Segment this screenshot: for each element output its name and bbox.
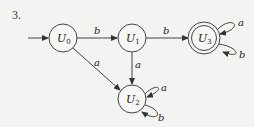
loop-label-u2-a: a — [161, 82, 167, 93]
loop-label-u3-b: b — [239, 49, 245, 60]
loop-label-u2-b: b — [158, 112, 164, 123]
edge-label-u0-u1: b — [94, 25, 100, 36]
loop-u3-a — [217, 23, 234, 34]
edge-label-u1-u3: b — [163, 25, 169, 36]
loop-u2-b — [142, 105, 157, 117]
state-diagram: U0 U1 U2 U3 b b a a a b a b — [0, 0, 254, 127]
edge-label-u0-u2: a — [94, 57, 100, 68]
loop-u3-b — [218, 44, 236, 54]
edge-u0-u2 — [73, 48, 120, 90]
loop-label-u3-a: a — [238, 17, 244, 28]
edge-label-u1-u2: a — [135, 59, 141, 70]
loop-u2-a — [145, 87, 159, 97]
